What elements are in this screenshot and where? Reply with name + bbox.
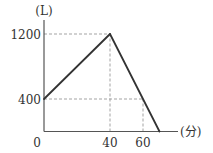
y-tick-label: 400 [18,93,41,107]
x-axis-label: (分) [180,125,201,139]
x-tick-label: 40 [102,136,117,150]
y-tick-label: 1200 [10,28,41,42]
guide-lines [44,34,143,132]
origin-label: 0 [33,136,41,150]
series-segment-1 [110,34,160,132]
y-axis-label: (L) [35,4,52,18]
x-tick-labels: 4060 [102,136,150,150]
chart: (L) (分) 0 4060 4001200 [0,0,213,153]
x-tick-label: 60 [135,136,150,150]
series [44,34,160,132]
series-segment-0 [44,34,110,99]
y-tick-labels: 4001200 [10,28,41,107]
